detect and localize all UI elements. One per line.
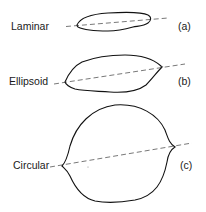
circular-axis-line xyxy=(50,143,192,167)
circular-label: Circular xyxy=(13,160,49,171)
ellipsoid-outline xyxy=(65,55,162,92)
circular-shape-group xyxy=(50,105,192,203)
ellipsoid-label: Ellipsoid xyxy=(9,76,48,87)
ellipsoid-axis-line xyxy=(54,64,185,84)
ellipsoid-tag: (b) xyxy=(178,76,191,87)
laminar-tag: (a) xyxy=(178,21,191,32)
ellipsoid-shape-group xyxy=(54,55,185,92)
circular-center-dot xyxy=(88,167,89,168)
circular-outline xyxy=(62,105,175,203)
circular-tag: (c) xyxy=(180,160,192,171)
laminar-outline xyxy=(77,12,151,31)
laminar-shape-group xyxy=(66,12,168,31)
laminar-label: Laminar xyxy=(11,21,49,32)
